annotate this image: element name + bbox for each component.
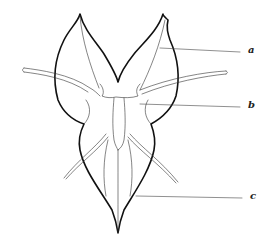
right-lobe-vein (140, 20, 165, 90)
label-c: c (250, 190, 256, 201)
specimen-drawing (0, 0, 273, 251)
label-a: a (248, 44, 254, 55)
label-b: b (248, 99, 255, 110)
figure: a b c (0, 0, 273, 251)
right-tendril (140, 71, 226, 90)
column-right (118, 98, 125, 150)
leader-a (160, 48, 240, 52)
outer-outline (55, 14, 178, 233)
center-top (100, 84, 140, 98)
leader-c (136, 196, 242, 198)
lower-left-tendril (64, 134, 106, 178)
column-left (113, 98, 118, 150)
leader-b (140, 104, 240, 107)
left-lobe-vein (80, 16, 99, 88)
left-tendril (24, 68, 100, 96)
